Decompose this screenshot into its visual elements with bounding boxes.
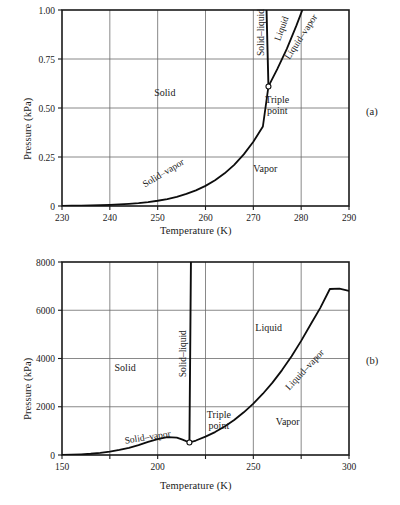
- triple-point-label: Triplepoint: [207, 409, 232, 431]
- annotations: SolidVaporLiquidSolid–vaporSolid–liquidL…: [115, 322, 327, 446]
- x-tick-label: 200: [151, 462, 166, 472]
- y-tick-label: 6000: [36, 306, 55, 316]
- solid-region-label: Solid: [154, 87, 175, 98]
- x-tick-label: 280: [294, 213, 309, 223]
- x-tick-label: 150: [55, 462, 70, 472]
- vapor-region-label: Vapor: [276, 416, 301, 427]
- x-tick-label: 260: [198, 213, 213, 223]
- y-axis-title-b: Pressure (kPa): [22, 358, 33, 420]
- curve-solid-liquid: [189, 260, 191, 443]
- curve-solid-vapor: [62, 86, 268, 205]
- liquid-region-label: Liquid: [273, 15, 291, 42]
- solid-vapor-curve-label: Solid–vapor: [124, 428, 172, 445]
- panel-a: 23024025026027028029000.250.500.751.00So…: [0, 0, 400, 245]
- triple-point-label: Triplepoint: [265, 94, 290, 116]
- curve-solid-liquid: [266, 8, 268, 86]
- x-tick-label: 250: [151, 213, 166, 223]
- solid-liquid-curve-label: Solid–liquid: [178, 330, 188, 377]
- chart-a-plot: 23024025026027028029000.250.500.751.00So…: [0, 0, 400, 245]
- gridlines: [62, 10, 349, 206]
- panel-label-b: (b): [366, 355, 378, 366]
- x-tick-label: 290: [342, 213, 357, 223]
- x-tick-label: 270: [246, 213, 261, 223]
- chart-b-plot: 15020025030002000400060008000SolidVaporL…: [0, 245, 400, 505]
- y-tick-label: 0.75: [38, 55, 55, 65]
- gridlines: [62, 262, 349, 455]
- x-tick-label: 230: [55, 213, 70, 223]
- liquid-region-label: Liquid: [255, 322, 282, 333]
- y-tick-label: 8000: [36, 258, 55, 268]
- y-axis-title-a: Pressure (kPa): [22, 98, 33, 160]
- triple-point-marker: [266, 84, 271, 89]
- solid-region-label: Solid: [115, 362, 136, 373]
- triple-point-marker: [187, 440, 192, 445]
- x-tick-label: 250: [246, 462, 261, 472]
- y-tick-label: 0: [50, 451, 55, 461]
- x-axis-title-b: Temperature (K): [160, 480, 232, 491]
- y-tick-label: 0.25: [38, 153, 55, 163]
- y-tick-label: 0.50: [38, 104, 55, 114]
- solid-liquid-curve-label: Solid–liquid: [256, 9, 266, 56]
- y-tick-label: 1.00: [38, 6, 55, 16]
- y-tick-label: 2000: [36, 402, 55, 412]
- vapor-region-label: Vapor: [253, 163, 278, 174]
- phase-diagram-figure: 23024025026027028029000.250.500.751.00So…: [0, 0, 400, 505]
- y-tick-label: 4000: [36, 354, 55, 364]
- x-tick-label: 300: [342, 462, 357, 472]
- panel-b: 15020025030002000400060008000SolidVaporL…: [0, 245, 400, 505]
- x-axis-title-a: Temperature (K): [160, 225, 232, 236]
- liquid-vapor-curve-label: Liquid–vapor: [283, 347, 326, 392]
- y-tick-label: 0: [50, 202, 55, 212]
- x-tick-label: 240: [103, 213, 118, 223]
- solid-vapor-curve-label: Solid–vapor: [141, 156, 187, 189]
- axis-ticks: [58, 10, 349, 210]
- panel-label-a: (a): [366, 106, 378, 117]
